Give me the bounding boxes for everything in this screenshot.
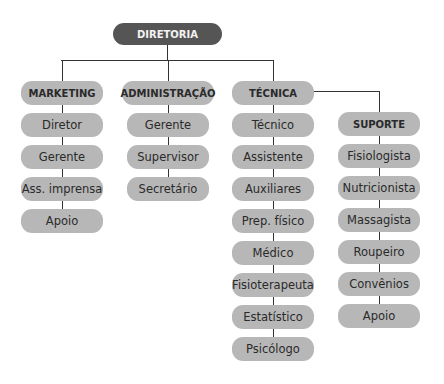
role-node: Gerente: [21, 145, 103, 169]
role-node: Convênios: [338, 272, 420, 296]
role-node: Prep. físico: [232, 209, 314, 233]
role-node: Ass. imprensa: [21, 177, 103, 201]
role-node: Auxiliares: [232, 177, 314, 201]
role-node: Fisiologista: [338, 144, 420, 168]
role-node: Secretário: [127, 177, 209, 201]
department-node: SUPORTE: [338, 112, 420, 136]
role-node: Apoio: [21, 209, 103, 233]
role-node: Nutricionista: [338, 176, 420, 200]
connector: [167, 45, 168, 60]
role-node: Psicólogo: [232, 337, 314, 361]
role-node: Massagista: [338, 208, 420, 232]
role-node: Técnico: [232, 113, 314, 137]
role-node: Fisioterapeuta: [232, 273, 314, 297]
role-node: Gerente: [127, 113, 209, 137]
role-node: Supervisor: [127, 145, 209, 169]
root-node-diretoria: DIRETORIA: [113, 23, 222, 45]
role-node: Apoio: [338, 304, 420, 328]
role-node: Estatístico: [232, 305, 314, 329]
department-node: ADMINISTRAÇÃO: [122, 81, 214, 105]
role-node: Diretor: [21, 113, 103, 137]
role-node: Médico: [232, 241, 314, 265]
role-node: Roupeiro: [338, 240, 420, 264]
department-node: MARKETING: [21, 81, 103, 105]
department-node: TÉCNICA: [232, 81, 314, 105]
role-node: Assistente: [232, 145, 314, 169]
connector: [314, 91, 379, 92]
